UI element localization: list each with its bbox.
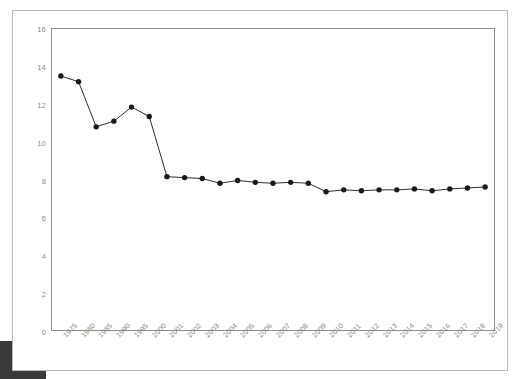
plot-area: 0246810121416 19751980198519901995200020… [51, 28, 495, 331]
data-point [341, 187, 346, 192]
data-point [376, 187, 381, 192]
data-point [111, 118, 116, 123]
y-tick-label: 4 [42, 252, 52, 261]
y-tick-label: 2 [42, 290, 52, 299]
data-point [58, 73, 63, 78]
series-line [61, 76, 485, 192]
data-point [253, 180, 258, 185]
y-tick-label: 6 [42, 214, 52, 223]
data-point [306, 181, 311, 186]
data-point [200, 176, 205, 181]
y-tick-label: 16 [37, 25, 52, 34]
data-point [359, 188, 364, 193]
plot-inner [52, 29, 494, 330]
data-point [429, 188, 434, 193]
data-point [447, 186, 452, 191]
data-point [217, 181, 222, 186]
data-point [412, 186, 417, 191]
data-point [288, 180, 293, 185]
data-point [76, 79, 81, 84]
chart-card: 0246810121416 19751980198519901995200020… [12, 10, 508, 371]
data-point [482, 184, 487, 189]
data-point [465, 185, 470, 190]
y-tick-label: 10 [37, 138, 52, 147]
data-point [235, 178, 240, 183]
y-tick-label: 14 [37, 62, 52, 71]
data-point [147, 114, 152, 119]
data-point [94, 124, 99, 129]
data-point [323, 189, 328, 194]
line-series [52, 29, 494, 330]
data-point [129, 104, 134, 109]
data-point [270, 181, 275, 186]
y-tick-label: 8 [42, 176, 52, 185]
data-point [164, 174, 169, 179]
data-point [182, 175, 187, 180]
y-tick-label: 0 [42, 328, 52, 337]
y-tick-label: 12 [37, 100, 52, 109]
data-point [394, 187, 399, 192]
